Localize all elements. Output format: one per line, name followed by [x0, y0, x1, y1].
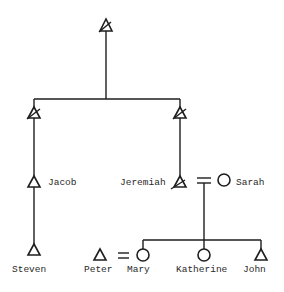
kinship-diagram: Jacob Steven Jeremiah Sarah Peter Mary	[0, 0, 284, 292]
person-jeremiah: Jeremiah	[120, 176, 186, 189]
female-circle-icon	[198, 249, 210, 261]
male-triangle-icon	[28, 244, 40, 255]
marriage-peter-mary	[118, 253, 129, 258]
label-jeremiah: Jeremiah	[120, 177, 166, 188]
label-john: John	[243, 264, 266, 275]
son-right-symbol	[173, 107, 186, 119]
male-triangle-icon	[28, 176, 40, 187]
label-katherine: Katherine	[176, 264, 228, 275]
female-circle-icon	[137, 249, 149, 261]
person-mary: Mary	[127, 249, 150, 275]
ancestor-symbol	[99, 19, 112, 32]
label-sarah: Sarah	[236, 177, 265, 188]
person-sarah: Sarah	[218, 174, 265, 188]
label-jacob: Jacob	[48, 177, 77, 188]
person-peter: Peter	[84, 249, 113, 275]
person-john: John	[243, 249, 267, 275]
person-steven: Steven	[12, 244, 46, 275]
marriage-jeremiah-sarah	[197, 178, 211, 183]
label-peter: Peter	[84, 264, 113, 275]
son-left-symbol	[27, 107, 40, 119]
female-circle-icon	[218, 174, 230, 186]
person-jacob: Jacob	[28, 176, 77, 188]
label-mary: Mary	[127, 264, 150, 275]
label-steven: Steven	[12, 264, 46, 275]
person-katherine: Katherine	[176, 249, 228, 275]
male-triangle-icon	[255, 249, 267, 260]
male-triangle-icon	[94, 249, 106, 260]
